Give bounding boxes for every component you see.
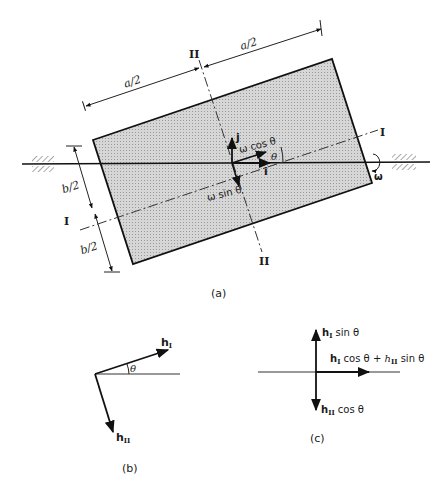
axis-I-label-left: I [64, 215, 69, 228]
label-right-c: hI cos θ + hII sin θ [330, 353, 424, 366]
h1-label: hI [161, 336, 172, 350]
panel-b: θ hI hII (b) [95, 336, 180, 475]
dim-a-right [204, 29, 321, 67]
caption-c: (c) [310, 432, 325, 445]
theta-label-a: θ [271, 151, 277, 162]
panel-c: hI sin θ hI cos θ + hII sin θ hII cos θ … [258, 327, 424, 445]
axis-II-label-top: II [189, 48, 199, 61]
caption-a: (a) [211, 287, 226, 300]
omega-label: ω [374, 171, 383, 182]
panel-a: ω I I II II a/2 a/2 b/2 b/2 j i ω cos θ [22, 20, 430, 300]
rotation-shaft [22, 162, 430, 164]
dynamics-figure: ω I I II II a/2 a/2 b/2 b/2 j i ω cos θ [0, 0, 443, 477]
h2-label: hII [116, 431, 130, 445]
vector-h2 [95, 374, 113, 432]
axis-II-label-bottom: II [259, 255, 269, 268]
theta-label-b: θ [130, 363, 136, 374]
caption-b: (b) [122, 462, 138, 475]
dim-b-bottom-label: b/2 [79, 239, 100, 257]
label-up-c: hI sin θ [322, 327, 359, 340]
label-down-c: hII cos θ [321, 404, 364, 417]
theta-arc-b [127, 364, 129, 374]
dim-b-top-label: b/2 [60, 178, 81, 196]
axis-I-label-right: I [380, 126, 385, 139]
vector-j-label: j [235, 131, 240, 144]
dim-a-left [86, 68, 199, 106]
vector-i-label: i [264, 165, 268, 178]
